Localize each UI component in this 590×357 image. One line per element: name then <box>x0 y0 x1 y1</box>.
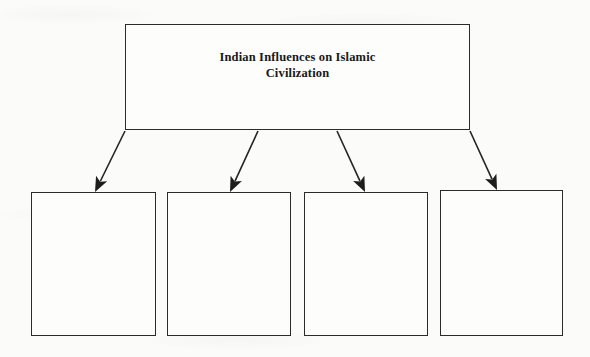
child-node-box-3[interactable] <box>304 192 428 336</box>
arrow-title-to-box-2-head <box>230 176 242 192</box>
title-node-label: Indian Influences on Islamic Civilizatio… <box>183 25 413 81</box>
arrow-title-to-box-2-shaft <box>235 131 258 181</box>
arrow-title-to-box-4-shaft <box>470 131 492 179</box>
title-node-box[interactable]: Indian Influences on Islamic Civilizatio… <box>125 24 470 130</box>
arrow-title-to-box-3-head <box>353 176 365 192</box>
diagram-canvas: Indian Influences on Islamic Civilizatio… <box>0 0 590 357</box>
child-node-box-4[interactable] <box>440 190 563 336</box>
arrow-title-to-box-1-head <box>95 176 107 192</box>
child-node-box-1[interactable] <box>31 192 156 336</box>
arrow-title-to-box-4-head <box>485 174 497 190</box>
child-node-box-2[interactable] <box>167 192 291 336</box>
arrow-title-to-box-3-shaft <box>337 131 360 181</box>
arrow-title-to-box-1-shaft <box>100 131 125 181</box>
